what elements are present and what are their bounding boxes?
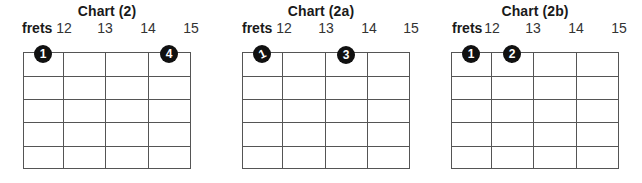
fret-line [105, 53, 106, 168]
fret-number-14: 14 [568, 20, 584, 36]
frets-label: frets [452, 20, 482, 36]
finger-dot: 1 [462, 45, 480, 63]
finger-dot: 1 [34, 45, 52, 63]
chart-2: Chart (2) frets 12 13 14 15 1 4 [0, 0, 214, 183]
fret-line [576, 53, 577, 168]
finger-dot: 2 [503, 45, 521, 63]
string-line [243, 76, 409, 77]
fret-number-14: 14 [361, 20, 377, 36]
fretboard-grid [242, 52, 410, 169]
string-line [243, 122, 409, 123]
fret-number-12: 12 [56, 20, 72, 36]
chart-title: Chart (2) [0, 3, 214, 19]
finger-dot: 3 [337, 46, 355, 64]
finger-dot: 4 [160, 45, 178, 63]
chart-title: Chart (2b) [428, 3, 642, 19]
chart-title: Chart (2a) [214, 3, 428, 19]
finger-dot-slide: 1 [253, 45, 271, 63]
fret-number-13: 13 [318, 20, 334, 36]
fretboard-grid [23, 52, 191, 169]
chart-2a: Chart (2a) frets 12 13 14 15 1 3 [214, 0, 428, 183]
fret-line [63, 53, 64, 168]
fret-line [491, 53, 492, 168]
string-line [452, 76, 618, 77]
string-line [243, 99, 409, 100]
string-line [24, 76, 190, 77]
fret-line [325, 53, 326, 168]
string-line [452, 146, 618, 147]
fret-number-12: 12 [276, 20, 292, 36]
fret-number-13: 13 [97, 20, 113, 36]
frets-label: frets [22, 20, 52, 36]
fret-line [367, 53, 368, 168]
string-line [452, 99, 618, 100]
fret-number-14: 14 [140, 20, 156, 36]
string-line [452, 122, 618, 123]
fret-line [148, 53, 149, 168]
fret-number-15: 15 [403, 20, 419, 36]
string-line [24, 99, 190, 100]
string-line [243, 146, 409, 147]
fret-line [282, 53, 283, 168]
fret-number-13: 13 [525, 20, 541, 36]
string-line [24, 146, 190, 147]
fret-line [533, 53, 534, 168]
fret-number-12: 12 [484, 20, 500, 36]
fret-number-15: 15 [611, 20, 627, 36]
string-line [24, 122, 190, 123]
frets-label: frets [242, 20, 272, 36]
chart-2b: Chart (2b) frets 12 13 14 15 1 2 [428, 0, 642, 183]
fret-number-15: 15 [183, 20, 199, 36]
fretboard-grid [451, 52, 619, 169]
